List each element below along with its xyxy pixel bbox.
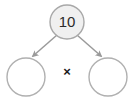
arrow-to-right-factor <box>77 35 101 56</box>
diagram-canvas: 10 × <box>0 0 134 100</box>
multiplication-sign-icon: × <box>63 64 71 79</box>
left-factor-circle[interactable] <box>7 58 45 96</box>
root-node-label: 10 <box>59 13 76 30</box>
arrow-to-left-factor <box>33 35 57 56</box>
factor-tree-diagram: 10 × <box>0 0 134 100</box>
right-factor-circle[interactable] <box>89 58 127 96</box>
